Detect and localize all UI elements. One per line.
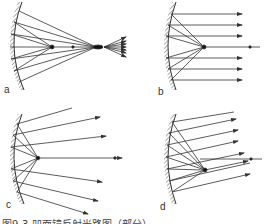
panel-label-d: d: [160, 201, 166, 212]
panel-label-a: a: [4, 84, 10, 95]
panel-label-b: b: [158, 86, 164, 97]
panel-c: [10, 108, 122, 214]
panel-b: [164, 2, 260, 90]
panel-label-c: c: [6, 199, 11, 210]
figure-caption: 图9-3 凹面镜反射光路图（部分）: [2, 216, 152, 224]
mirror-reflection-diagram: [0, 0, 272, 224]
panel-a: [10, 2, 126, 90]
panel-d: [164, 112, 262, 204]
